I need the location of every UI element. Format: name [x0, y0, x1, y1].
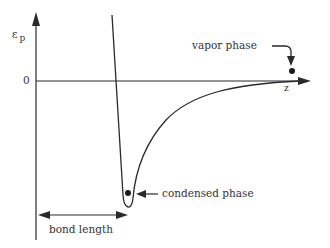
vapor-phase-label: vapor phase — [192, 39, 257, 51]
condensed-phase-arrowhead-icon — [136, 190, 146, 198]
condensed-phase-dot — [125, 190, 131, 196]
bond-length-left-arrowhead-icon — [38, 211, 50, 219]
y-axis-subscript: p — [19, 33, 25, 43]
vapor-phase-arrowhead-icon — [287, 56, 295, 66]
condensed-phase-label: condensed phase — [162, 187, 254, 199]
bond-length-label: bond length — [49, 223, 113, 235]
bond-length-right-arrowhead-icon — [116, 211, 128, 219]
y-axis-arrowhead-icon — [32, 12, 40, 26]
zero-label: 0 — [23, 74, 30, 86]
y-axis-symbol: ε — [12, 28, 17, 40]
x-axis-label: z — [284, 83, 289, 93]
vapor-phase-dot — [289, 68, 295, 74]
potential-energy-diagram — [0, 0, 330, 248]
y-axis-label: εp — [12, 28, 25, 40]
